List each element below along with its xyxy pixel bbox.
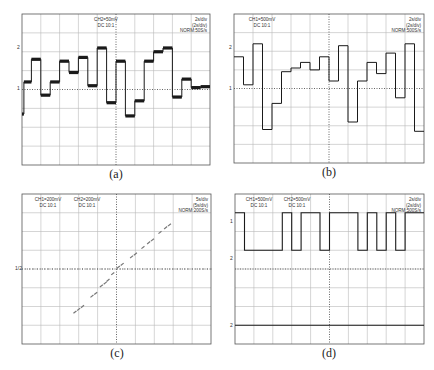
scatter-point — [111, 272, 114, 274]
scope-panel-a: CH2=50mV DC 10:1 2s/div (2s/div) NORM:50… — [22, 14, 210, 165]
scatter-point — [121, 263, 124, 265]
step-plateau — [88, 84, 97, 87]
scatter-point — [151, 239, 154, 241]
step-plateau — [107, 101, 116, 104]
channel-coupling: DC 10:1 — [67, 203, 107, 209]
scope-screen-b — [234, 14, 424, 163]
timebase-label-a: 2s/div (2s/div) NORM:50S/s — [180, 17, 207, 34]
step-plateau — [201, 85, 210, 88]
scatter-point — [104, 282, 107, 284]
step-plateau — [172, 95, 181, 98]
channel-label-c-1: CH1=200mV DC 10:1 — [28, 197, 68, 208]
timebase-label-d: 2s/div (2s/div) NORM:500S/s — [391, 197, 421, 214]
channel-marker-d-1: 1 — [230, 218, 233, 224]
channel-coupling: DC 10:1 — [239, 203, 279, 209]
scatter-point — [130, 256, 133, 258]
waveform-trace — [234, 44, 424, 132]
timebase-label-b: 2s/div (2s/div) NORM:500S/s — [391, 17, 421, 34]
scope-panel-d: CH1=500mV DC 10:1 CH2=500mV DC 10:1 2s/d… — [235, 194, 424, 344]
step-plateau — [41, 94, 50, 97]
step-plateau — [191, 86, 200, 89]
step-plateau — [78, 56, 87, 59]
channel-coupling: DC 10:1 — [28, 203, 68, 209]
scatter-point — [147, 242, 150, 244]
scope-panel-c: CH1=200mV DC 10:1 CH2=200mV DC 10:1 5s/d… — [22, 194, 211, 344]
timebase-label-c: 5s/div (5s/div) NORM:200S/s — [178, 197, 208, 214]
channel-label-b-1: CH1=500mV DC 10:1 — [242, 17, 282, 28]
scatter-point — [164, 227, 167, 229]
scatter-point — [168, 224, 171, 226]
sample-rate: NORM:200S/s — [178, 208, 208, 214]
channel-label-d-1: CH1=500mV DC 10:1 — [239, 197, 279, 208]
channel-marker-b-1: 1 — [229, 85, 232, 91]
step-plateau — [163, 46, 172, 49]
channel-label-c-2: CH2=200mV DC 10:1 — [67, 197, 107, 208]
channel-marker-b-2: 2 — [229, 44, 232, 50]
caption-c: (c) — [97, 346, 137, 361]
caption-d: (d) — [309, 346, 349, 361]
channel-marker-d-3: 2 — [230, 322, 233, 328]
step-plateau — [97, 46, 106, 49]
channel-marker-a-1: 1 — [17, 85, 20, 91]
channel-coupling: DC 10:1 — [277, 203, 317, 209]
step-plateau — [69, 71, 78, 74]
sample-rate: NORM:500S/s — [391, 208, 421, 214]
scope-screen-a — [22, 14, 210, 165]
scope-screen-d — [235, 194, 424, 344]
step-plateau — [144, 60, 153, 63]
step-plateau — [116, 60, 125, 63]
scatter-point — [106, 279, 109, 281]
scatter-point — [117, 266, 120, 268]
scatter-point — [90, 295, 93, 297]
scatter-point — [100, 285, 103, 287]
step-plateau — [24, 80, 32, 83]
channel-label-a-1: CH2=50mV DC 10:1 — [86, 17, 126, 28]
scatter-point — [94, 292, 97, 294]
channel-marker-a-2: 2 — [17, 44, 20, 50]
caption-b: (b) — [309, 165, 349, 180]
sample-rate: NORM:500S/s — [391, 28, 421, 34]
caption-a: (a) — [96, 167, 136, 182]
step-plateau — [31, 58, 40, 61]
channel-marker-d-2: 2 — [230, 255, 233, 261]
step-plateau — [60, 60, 69, 63]
step-plateau — [50, 80, 59, 83]
step-plateau — [135, 99, 144, 102]
channel-marker-c: 1/2 — [15, 265, 22, 271]
step-plateau — [22, 112, 24, 115]
step-plateau — [154, 50, 163, 53]
channel-coupling: DC 10:1 — [86, 23, 126, 29]
scope-screen-c — [22, 194, 211, 344]
scope-panel-b: CH1=500mV DC 10:1 2s/div (2s/div) NORM:5… — [234, 14, 424, 163]
step-plateau — [125, 114, 134, 117]
channel-label-d-2: CH2=500mV DC 10:1 — [277, 197, 317, 208]
channel-coupling: DC 10:1 — [242, 23, 282, 29]
scatter-point — [73, 311, 76, 313]
step-plateau — [182, 78, 191, 81]
sample-rate: NORM:50S/s — [180, 28, 207, 34]
scatter-point — [141, 246, 144, 248]
